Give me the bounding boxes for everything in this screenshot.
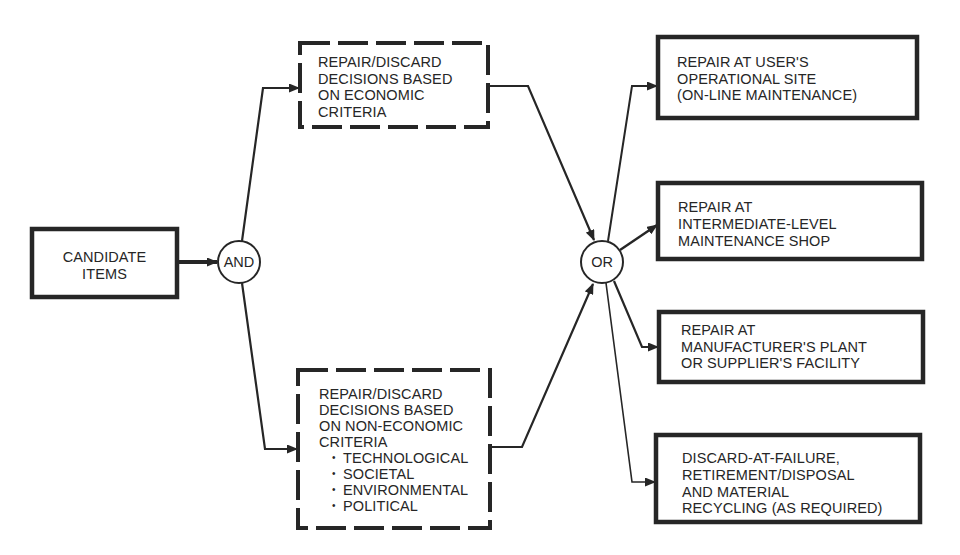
outcome-line: OR SUPPLIER'S FACILITY [681,355,867,372]
outcome-line: (ON-LINE MAINTENANCE) [677,87,857,104]
bullet-icon: • [332,498,336,514]
outcome-line: DISCARD-AT-FAILURE, [682,450,883,467]
or-gate-label: OR [581,241,623,283]
candidate-line: ITEMS [32,266,177,283]
connector-or-to-discard [606,283,655,482]
non-economic-line: ON NON-ECONOMIC [319,418,468,434]
criteria-bullet-item: • POLITICAL [319,498,468,514]
outcome-line: MANUFACTURER'S PLANT [681,339,867,356]
connector-and-to-non-economic [242,283,297,449]
outcome-manufacturer-plant: REPAIR AT MANUFACTURER'S PLANT OR SUPPLI… [681,322,867,372]
criteria-bullet-item: • ENVIRONMENTAL [319,482,468,498]
outcome-discard-at-failure: DISCARD-AT-FAILURE, RETIREMENT/DISPOSAL … [682,450,883,517]
bullet-text: ENVIRONMENTAL [332,482,468,498]
outcome-line: RETIREMENT/DISPOSAL [682,467,883,484]
bullet-icon: • [332,450,336,466]
outcome-intermediate-level-shop: REPAIR AT INTERMEDIATE-LEVEL MAINTENANCE… [678,199,837,250]
outcome-line: AND MATERIAL [682,484,883,501]
repair-discard-decision-diagram: CANDIDATE ITEMS AND OR REPAIR/DISCARD DE… [0,0,960,555]
criteria-bullet-item: • TECHNOLOGICAL [319,450,468,466]
non-economic-line: DECISIONS BASED [319,402,468,418]
connector-or-to-manufacturer [614,281,658,347]
outcome-line: REPAIR AT [681,322,867,339]
non-economic-criteria-node: REPAIR/DISCARD DECISIONS BASED ON NON-EC… [319,386,468,514]
connector-and-to-economic [242,88,299,241]
outcome-line: REPAIR AT USER'S [677,54,857,71]
non-economic-line: REPAIR/DISCARD [319,386,468,402]
outcome-line: INTERMEDIATE-LEVEL [678,216,837,233]
connector-non-economic-to-or [490,284,593,447]
economic-line: ON ECONOMIC [318,87,452,104]
non-economic-line: CRITERIA [319,434,468,450]
bullet-text: SOCIETAL [332,466,468,482]
outcome-line: RECYCLING (AS REQUIRED) [682,500,883,517]
connector-economic-to-or [488,86,594,240]
economic-line: REPAIR/DISCARD [318,54,452,71]
bullet-text: TECHNOLOGICAL [332,450,468,466]
outcome-users-operational-site: REPAIR AT USER'S OPERATIONAL SITE (ON-LI… [677,54,857,104]
connector-or-to-intermediate-shop [620,225,657,250]
outcome-line: MAINTENANCE SHOP [678,233,837,250]
outcome-line: REPAIR AT [678,199,837,216]
criteria-bullet-item: • SOCIETAL [319,466,468,482]
candidate-line: CANDIDATE [32,249,177,266]
bullet-icon: • [332,466,336,482]
economic-criteria-node: REPAIR/DISCARD DECISIONS BASED ON ECONOM… [318,54,452,120]
bullet-text: POLITICAL [332,498,468,514]
economic-line: CRITERIA [318,104,452,121]
and-gate-label: AND [218,241,260,283]
candidate-items-node: CANDIDATE ITEMS [32,249,177,282]
economic-line: DECISIONS BASED [318,71,452,88]
outcome-line: OPERATIONAL SITE [677,71,857,88]
bullet-icon: • [332,482,336,498]
connector-or-to-users-site [608,86,657,241]
